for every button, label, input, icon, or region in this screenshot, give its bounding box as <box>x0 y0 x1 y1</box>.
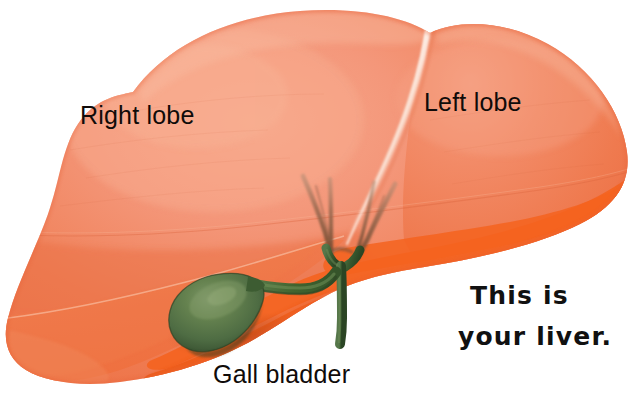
caption-line-1: This is <box>470 283 569 308</box>
vessel-branch-left-inner <box>330 179 331 256</box>
label-right-lobe: Right lobe <box>80 103 195 128</box>
illustration-canvas: Right lobe Left lobe Gall bladder This i… <box>0 0 631 407</box>
label-left-lobe: Left lobe <box>424 90 522 115</box>
caption-line-2: your liver. <box>458 324 612 349</box>
common-bile-duct-highlight <box>339 270 340 342</box>
label-gall-bladder: Gall bladder <box>213 362 350 387</box>
